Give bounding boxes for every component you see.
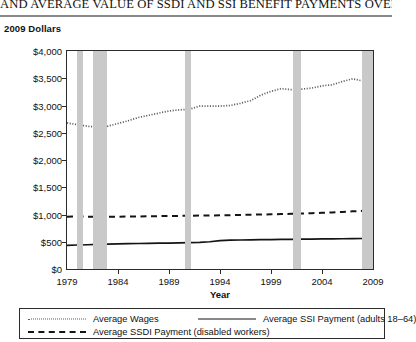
chart-legend: Average Wages Average SSI Payment (adult… (19, 308, 385, 339)
x-axis-tick-label: 2004 (311, 276, 332, 287)
recession-band (362, 51, 373, 269)
legend-item-average-ssdi-payment: Average SSDI Payment (disabled workers) (28, 325, 270, 339)
figure-title-container: AND AVERAGE VALUE OF SSDI AND SSI BENEFI… (0, 0, 392, 14)
legend-item-average-wages: Average Wages (28, 312, 159, 326)
y-axis-caption: 2009 Dollars (4, 23, 61, 34)
y-axis-tick-label: $500 (4, 236, 62, 247)
title-divider (0, 15, 392, 17)
x-axis-tick-mark (271, 270, 272, 274)
y-axis-tick-label: $1,000 (4, 209, 62, 220)
y-axis-tick-label: $0 (4, 264, 62, 275)
legend-row-1: Average Wages Average SSI Payment (adult… (20, 312, 384, 326)
y-axis-tick-label: $2,500 (4, 127, 62, 138)
series-line-average-ssi-payment-adults-18-64 (67, 238, 373, 245)
series-line-average-ssdi-payment-disabled-workers (67, 210, 373, 217)
recession-band (293, 51, 300, 269)
x-axis-title-wrap: Year (0, 289, 392, 300)
recession-band (185, 51, 192, 269)
x-axis-tick-label: 1999 (260, 276, 281, 287)
recession-band (77, 51, 83, 269)
x-axis-tick-label: 2009 (362, 276, 383, 287)
legend-label-average-ssi-payment: Average SSI Payment (adults 18–64) (263, 314, 416, 324)
plot-area (66, 50, 374, 270)
series-lines (67, 51, 373, 269)
x-axis-tick-label: 1984 (107, 276, 128, 287)
x-axis-tick-mark (169, 270, 170, 274)
figure-title: AND AVERAGE VALUE OF SSDI AND SSI BENEFI… (0, 0, 392, 12)
y-axis-tick-label: $4,000 (4, 46, 62, 57)
legend-swatch-dotted (28, 314, 86, 324)
legend-swatch-solid (198, 314, 256, 324)
x-axis-title: Year (210, 289, 230, 300)
recession-band (93, 51, 107, 269)
series-line-average-wages (67, 79, 373, 128)
x-axis-tick-label: 1979 (56, 276, 77, 287)
y-axis-tick-label: $3,000 (4, 100, 62, 111)
x-axis-tick-mark (118, 270, 119, 274)
x-axis-tick-mark (322, 270, 323, 274)
y-axis-tick-label: $3,500 (4, 73, 62, 84)
legend-row-2: Average SSDI Payment (disabled workers) (20, 325, 384, 339)
x-axis-tick-label: 1989 (158, 276, 179, 287)
x-axis-tick-mark (220, 270, 221, 274)
y-axis-tick-label: $2,000 (4, 155, 62, 166)
x-axis-tick-label: 1994 (209, 276, 230, 287)
legend-item-average-ssi-payment: Average SSI Payment (adults 18–64) (198, 312, 416, 326)
y-axis-tick-label: $1,500 (4, 182, 62, 193)
legend-swatch-dashed (28, 327, 86, 337)
legend-label-average-ssdi-payment: Average SSDI Payment (disabled workers) (93, 327, 270, 337)
legend-label-average-wages: Average Wages (93, 314, 159, 324)
